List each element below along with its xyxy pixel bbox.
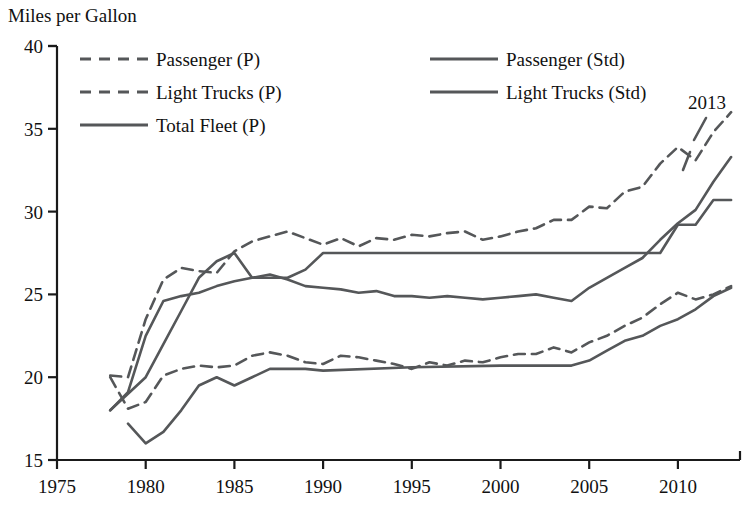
y-tick-label: 35 [24,119,43,140]
annotation-leader-line [683,118,706,170]
x-tick-label: 1980 [127,476,165,497]
legend-label: Passenger (Std) [506,49,625,71]
y-tick-label: 30 [24,202,43,223]
y-axis-title: Miles per Gallon [8,5,137,26]
chart-legend: Passenger (P)Light Trucks (P)Total Fleet… [80,49,646,137]
legend-label: Light Trucks (P) [156,82,282,104]
y-tick-label: 20 [24,367,43,388]
chart-axes [48,46,740,469]
x-tick-label: 2000 [482,476,520,497]
y-axis-tick-labels: 152025303540 [24,36,43,471]
x-tick-label: 2005 [570,476,608,497]
legend-label: Passenger (P) [156,49,260,71]
y-tick-label: 15 [24,450,43,471]
annotation-2013: 2013 [688,92,726,113]
x-tick-label: 1995 [393,476,431,497]
x-tick-label: 1975 [38,476,76,497]
y-tick-label: 40 [24,36,43,57]
series-light-trucks-std [128,288,731,444]
legend-label: Total Fleet (P) [156,115,265,137]
y-tick-label: 25 [24,284,43,305]
legend-label: Light Trucks (Std) [506,82,646,104]
series-plot-area [110,112,731,443]
series-total-fleet-p [110,157,731,410]
series-light-trucks-p [110,286,731,409]
x-tick-label: 1990 [304,476,342,497]
chart-canvas: Miles per Gallon 152025303540 1975198019… [0,0,747,508]
x-axis-tick-labels: 19751980198519901995200020052010 [38,476,697,497]
series-passenger-std [110,200,731,410]
x-tick-label: 2010 [659,476,697,497]
mpg-line-chart: Miles per Gallon 152025303540 1975198019… [0,0,747,508]
x-tick-label: 1985 [215,476,253,497]
